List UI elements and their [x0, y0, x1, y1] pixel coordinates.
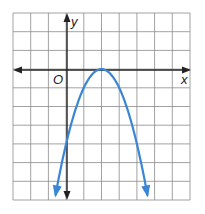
curve-left-arrow-icon: [53, 185, 62, 198]
x-axis-label: x: [180, 72, 188, 87]
grid: [13, 13, 190, 200]
x-axis-left-arrow-icon: [13, 67, 22, 74]
y-axis-down-arrow-icon: [64, 191, 71, 200]
origin-label: O: [53, 72, 63, 87]
y-axis-up-arrow-icon: [64, 13, 71, 22]
y-axis-label: y: [70, 14, 79, 29]
curve-right-arrow-icon: [141, 185, 150, 198]
graph: y x O: [0, 0, 205, 214]
